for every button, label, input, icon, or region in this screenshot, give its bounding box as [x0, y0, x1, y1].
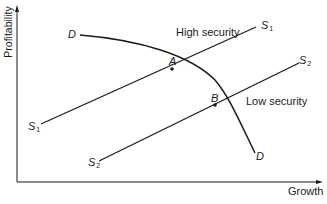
point-B-label: B: [211, 93, 218, 104]
s2-end-label: S2: [299, 55, 311, 67]
y-axis-label: Profitability: [2, 2, 14, 62]
x-axis-label: Growth: [288, 186, 323, 197]
high-security-annotation: High security: [176, 27, 240, 38]
supply-line-S2: [99, 63, 299, 161]
x-axis-arrow-icon: [316, 180, 323, 184]
low-security-annotation: Low security: [246, 96, 307, 107]
demand-start-label: D: [68, 29, 76, 40]
demand-end-label: D: [256, 151, 264, 162]
supply-line-S1: [41, 27, 256, 124]
point-A-label: A: [169, 56, 176, 67]
point-A-marker: [170, 67, 174, 71]
y-axis-arrow-icon: [15, 5, 19, 12]
s1-start-label: S1: [28, 121, 40, 133]
s1-end-label: S1: [261, 20, 273, 32]
s2-start-label: S2: [88, 157, 100, 169]
